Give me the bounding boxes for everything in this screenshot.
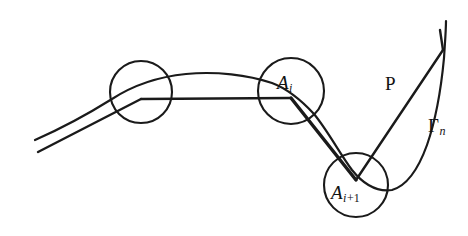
label-p-base: P — [385, 73, 396, 94]
label-a-i: Ai — [277, 73, 292, 94]
label-a-i-plus-1-offset: +1 — [346, 191, 359, 205]
label-a-i-subscript: i — [289, 81, 293, 95]
p-polyline-right-tail — [440, 30, 443, 50]
label-a-i-base: A — [277, 72, 289, 93]
label-gamma-n-base: Γ — [428, 115, 439, 136]
label-gamma-n: Γn — [428, 116, 445, 137]
neighborhood-circle-left — [110, 61, 172, 123]
label-a-i-plus-1: Ai+1 — [331, 183, 360, 204]
label-a-i-plus-1-base: A — [331, 182, 343, 203]
p-polyline-ai-to-ai-plus-1-segment — [291, 98, 356, 180]
gamma-n-curve — [35, 21, 446, 190]
label-gamma-n-subscript: n — [439, 124, 446, 138]
p-polyline-middle-segment — [141, 98, 291, 99]
label-p: P — [385, 74, 396, 93]
p-polyline-left-segment — [38, 99, 141, 152]
diagram-svg — [0, 0, 468, 236]
figure-canvas: Ai Ai+1 P Γn — [0, 0, 468, 236]
